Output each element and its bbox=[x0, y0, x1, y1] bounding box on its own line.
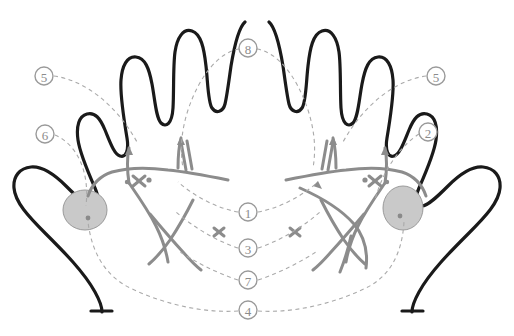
thenar-shade-right bbox=[383, 186, 423, 230]
callout-8-top-label: 8 bbox=[245, 42, 252, 57]
callout-3[interactable]: 3 bbox=[239, 239, 257, 257]
callout-7-label: 7 bbox=[245, 274, 252, 289]
right-hand-outline bbox=[269, 22, 500, 312]
leader-1-left bbox=[178, 182, 238, 212]
left-hand-outline bbox=[14, 22, 245, 312]
callout-markers: 5 8 5 6 2 1 3 7 bbox=[35, 39, 445, 319]
leader-1-right bbox=[258, 182, 318, 212]
leader-3-right bbox=[258, 212, 320, 248]
callout-8-top[interactable]: 8 bbox=[239, 39, 257, 57]
callout-4[interactable]: 4 bbox=[239, 301, 257, 319]
callout-2-right[interactable]: 2 bbox=[419, 123, 437, 141]
left-palm-markings bbox=[88, 138, 228, 270]
callout-5-left[interactable]: 5 bbox=[35, 67, 53, 85]
callout-5-right-label: 5 bbox=[433, 70, 440, 85]
leader-4-right bbox=[258, 222, 404, 311]
callout-1[interactable]: 1 bbox=[239, 203, 257, 221]
callout-6-left[interactable]: 6 bbox=[36, 125, 54, 143]
callout-2-right-label: 2 bbox=[425, 126, 432, 141]
left-palm-arrowheads bbox=[125, 136, 185, 155]
callout-4-label: 4 bbox=[245, 304, 252, 319]
leader-8-right bbox=[257, 49, 315, 168]
leader-lines bbox=[54, 49, 426, 311]
callout-5-right[interactable]: 5 bbox=[427, 67, 445, 85]
leader-5-right bbox=[343, 76, 426, 142]
callout-6-left-label: 6 bbox=[42, 128, 49, 143]
figure-canvas: 5 8 5 6 2 1 3 7 bbox=[0, 0, 514, 336]
callout-7[interactable]: 7 bbox=[239, 271, 257, 289]
callout-3-label: 3 bbox=[245, 242, 252, 257]
leader-7-right bbox=[258, 252, 316, 280]
hand-anatomy-diagram: 5 8 5 6 2 1 3 7 bbox=[0, 0, 514, 336]
callout-1-label: 1 bbox=[245, 206, 252, 221]
thenar-shade-left bbox=[63, 190, 107, 230]
callout-5-left-label: 5 bbox=[41, 70, 48, 85]
